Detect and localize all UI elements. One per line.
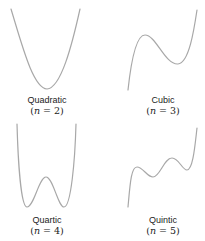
- quintic-curve: [128, 128, 197, 207]
- cubic-curve: [128, 10, 197, 90]
- quintic-label: Quintic (n = 5): [113, 215, 205, 236]
- panel-equation: (n = 5): [113, 225, 205, 236]
- quartic-label: Quartic (n = 4): [0, 215, 97, 236]
- quadratic-label: Quadratic (n = 2): [0, 95, 97, 116]
- quartic-curve: [17, 124, 76, 207]
- panel-name: Cubic: [113, 95, 205, 105]
- panel-equation: (n = 3): [113, 105, 205, 116]
- panel-equation: (n = 2): [0, 105, 97, 116]
- panel-equation: (n = 4): [0, 225, 97, 236]
- panel-name: Quadratic: [0, 95, 97, 105]
- quadratic-curve: [11, 9, 80, 89]
- panel-name: Quartic: [0, 215, 97, 225]
- cubic-label: Cubic (n = 3): [113, 95, 205, 116]
- panel-name: Quintic: [113, 215, 205, 225]
- polynomial-figure: [0, 0, 205, 241]
